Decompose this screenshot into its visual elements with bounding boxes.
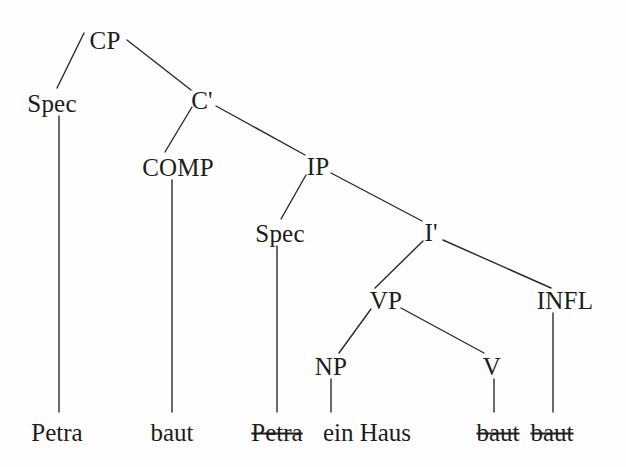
tree-edge-cbar-comp xyxy=(165,107,192,152)
tree-edge-ibar-vp xyxy=(375,241,423,288)
node-spec-cp: Spec xyxy=(27,91,76,116)
terminal-baut-trace-1: baut xyxy=(476,420,519,445)
node-v: V xyxy=(483,354,501,379)
node-infl: INFL xyxy=(537,288,593,313)
node-spec-ip: Spec xyxy=(255,221,304,246)
node-ip: IP xyxy=(307,154,330,179)
terminal-petra-trace: Petra xyxy=(251,420,302,445)
tree-edge-vp-v xyxy=(401,308,484,353)
node-i-bar: I' xyxy=(424,220,437,245)
tree-edge-vp-np xyxy=(339,309,371,353)
tree-edge-cp-spec1 xyxy=(57,33,84,88)
syntax-tree-diagram: CP Spec C' COMP IP Spec I' VP INFL NP V … xyxy=(0,0,626,467)
node-cp: CP xyxy=(90,28,121,53)
tree-edge-ip-spec2 xyxy=(281,175,306,219)
node-vp: VP xyxy=(370,288,402,313)
terminal-baut-trace-2: baut xyxy=(530,420,573,445)
tree-edge-cbar-ip xyxy=(216,106,305,155)
node-c-bar: C' xyxy=(191,88,213,113)
tree-edge-ibar-infl xyxy=(443,240,551,288)
terminal-ein-haus: ein Haus xyxy=(323,420,411,445)
node-np: NP xyxy=(315,354,347,379)
terminal-baut: baut xyxy=(150,420,193,445)
node-comp: COMP xyxy=(142,155,214,180)
tree-edge-ip-ibar xyxy=(331,173,422,221)
tree-edges-layer xyxy=(0,0,626,467)
tree-edge-cp-cbar xyxy=(127,40,191,90)
terminal-petra: Petra xyxy=(31,420,82,445)
